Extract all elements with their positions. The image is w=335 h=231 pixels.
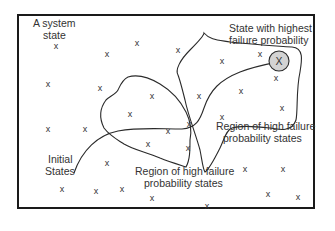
state-marker: x xyxy=(105,49,110,59)
initial-line1: Initial xyxy=(48,153,73,165)
highest-state-line1: State with highest xyxy=(229,22,312,34)
state-marker: x xyxy=(120,184,125,194)
label-region-right: Region of high failure probability state… xyxy=(216,120,315,144)
trajectory-curve xyxy=(74,62,278,173)
state-marker: x xyxy=(176,45,181,55)
state-marker: x xyxy=(296,192,301,202)
highest-state-marker: X xyxy=(275,55,282,67)
state-marker: x xyxy=(239,86,244,96)
label-highest-state: State with highest failure probability xyxy=(229,22,312,46)
initial-line2: States xyxy=(45,165,75,177)
state-marker: x xyxy=(105,158,110,168)
state-marker: x xyxy=(274,73,279,83)
system-state-line1: A system xyxy=(33,17,76,29)
state-marker: x xyxy=(94,186,99,196)
region-bottom-line2: probability states xyxy=(144,177,223,189)
state-marker: x xyxy=(266,189,271,199)
state-marker: x xyxy=(166,126,171,136)
state-marker: x xyxy=(128,109,133,119)
state-marker: x xyxy=(46,124,51,134)
region-bottom-line1: Region of high failure xyxy=(135,165,234,177)
state-marker: x xyxy=(83,124,88,134)
state-marker: x xyxy=(150,193,155,203)
highest-state-line2: failure probability xyxy=(229,34,309,46)
state-marker: x xyxy=(205,201,210,211)
state-marker: x xyxy=(187,119,192,129)
state-marker: x xyxy=(135,38,140,48)
state-marker: x xyxy=(197,91,202,101)
state-marker: x xyxy=(280,103,285,113)
state-marker: x xyxy=(220,56,225,66)
state-space-diagram: X x x x x x x x x x x x x x x x x x x x … xyxy=(0,0,335,231)
region-bottom-boundary xyxy=(101,76,191,167)
label-system-state: A system state xyxy=(33,17,76,41)
state-marker: x xyxy=(98,83,103,93)
region-right-line1: Region of high failure xyxy=(216,120,315,132)
region-right-line2: probability states xyxy=(223,132,302,144)
state-marker: x xyxy=(258,49,263,59)
system-state-line2: state xyxy=(43,29,66,41)
state-marker: x xyxy=(46,79,51,89)
state-marker: x xyxy=(186,143,191,153)
state-marker: x xyxy=(243,164,248,174)
state-marker: x xyxy=(281,164,286,174)
label-initial-states: Initial States xyxy=(45,153,75,177)
state-marker: x xyxy=(60,184,65,194)
state-marker: x xyxy=(54,41,59,51)
state-marker: x xyxy=(150,91,155,101)
state-marker: x xyxy=(146,139,151,149)
label-region-bottom: Region of high failure probability state… xyxy=(135,165,234,189)
